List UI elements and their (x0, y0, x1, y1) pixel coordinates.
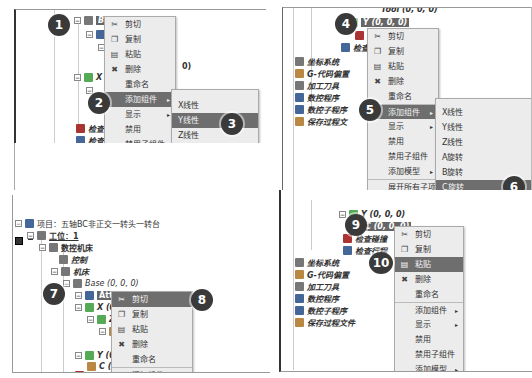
collapse-icon[interactable]: − (99, 328, 106, 335)
menu-item-display[interactable]: 显示▸ (105, 107, 175, 122)
menu-item-add-model[interactable]: 添加模型▸ (395, 362, 463, 372)
menu-item-cut[interactable]: ✂剪切 (112, 292, 192, 307)
nc-subprogram-icon (295, 306, 304, 315)
submenu-item-y-linear[interactable]: Y线性 (172, 113, 258, 128)
menu-item-display[interactable]: 显示▸ (368, 119, 438, 134)
collapse-icon[interactable]: − (63, 280, 70, 287)
tree-node-nc-program[interactable]: 数控程序 (295, 91, 339, 103)
menu-item-disable[interactable]: 禁用 (395, 332, 463, 347)
tree-node-coord-system[interactable]: 坐标系统 (295, 55, 339, 67)
collapse-icon[interactable]: − (39, 244, 46, 251)
context-menu: ✂剪切 ❐复制 ▤粘贴 ✖删除 重命名 添加组件▸ 显示▸ 禁用 禁用子组件 (104, 16, 176, 143)
tree-node-save-process[interactable]: 保存过程文件 (295, 316, 355, 328)
menu-item-rename[interactable]: 重命名 (368, 89, 438, 104)
collapse-icon[interactable]: − (75, 352, 82, 359)
tree-node-station[interactable]: − 工位：1 (27, 229, 79, 241)
menu-item-cut[interactable]: ✂剪切 (105, 17, 175, 32)
tree-node-check-collision[interactable]: 检查 (76, 122, 104, 134)
submenu-item-y-linear[interactable]: Y线性 (436, 120, 532, 135)
submenu-item-x-linear[interactable]: X线性 (172, 98, 258, 113)
tree-node-control[interactable]: 控制 (59, 253, 87, 265)
menu-item-display[interactable]: 显示▸ (395, 317, 463, 332)
menu-item-rename[interactable]: 重命名 (112, 352, 192, 367)
tree-node-g-offset[interactable]: G-代码偏置 (295, 67, 349, 79)
tree-node-save-process[interactable]: 保存过程文 (295, 115, 347, 127)
tree-node-check-travel[interactable]: 检查 (76, 134, 104, 143)
menu-item-disable[interactable]: 禁用 (368, 134, 438, 149)
g-code-offset-icon (295, 69, 304, 78)
save-process-icon (295, 318, 304, 327)
submenu-item-z-linear[interactable]: Z线性 (436, 135, 532, 150)
menu-item-delete[interactable]: ✖删除 (112, 337, 192, 352)
step-badge-9: 9 (345, 214, 367, 236)
tree-node-tools[interactable]: 加工刀具 (295, 79, 339, 91)
submenu-arrow-icon: ▸ (167, 92, 170, 107)
panel-step-4-6: Tool (0, 0, 0) Y (0, 0, 0) 检查碰 检查行 坐标系统 … (282, 7, 532, 195)
menu-item-delete[interactable]: ✖删除 (395, 272, 463, 287)
menu-item-disable-children[interactable]: 禁用子组件 (368, 149, 438, 164)
tree-node-nc-subprogram[interactable]: 数控子程序 (295, 304, 347, 316)
collapse-icon[interactable]: − (339, 211, 346, 218)
menu-item-disable[interactable]: 禁用 (105, 122, 175, 137)
collapse-icon[interactable]: − (86, 87, 93, 94)
tree-node-tools[interactable]: 加工刀具 (295, 280, 339, 292)
tree-node-x[interactable]: − X (74, 71, 102, 83)
submenu-item-a-rotary[interactable]: A旋转 (436, 150, 532, 165)
tree-node-g-offset[interactable]: G-代码偏置 (295, 268, 349, 280)
paste-icon: ▤ (400, 260, 409, 269)
collapse-icon[interactable]: − (74, 17, 81, 24)
menu-item-copy[interactable]: ❐复制 (368, 44, 438, 59)
collapse-icon[interactable]: − (27, 232, 34, 239)
menu-item-disable-children[interactable]: 禁用子组件 (395, 347, 463, 362)
menu-item-paste[interactable]: ▤粘贴 (395, 257, 463, 272)
menu-item-copy[interactable]: ❐复制 (112, 307, 192, 322)
tree-node-nc-program[interactable]: 数控程序 (295, 292, 339, 304)
nc-program-icon (295, 93, 304, 102)
step-badge-2: 2 (88, 92, 110, 114)
submenu-item-z-linear[interactable]: Z线性 (172, 128, 258, 143)
menu-item-delete[interactable]: ✖删除 (368, 74, 438, 89)
collapse-icon[interactable]: − (86, 31, 93, 38)
splitter-handle[interactable] (15, 237, 23, 245)
tree-node-project[interactable]: − 项目：五轴BC非正交一转头一转台 (15, 217, 160, 229)
menu-item-add-component[interactable]: 添加组件▸ (395, 302, 463, 317)
tree-node-coord-system[interactable]: 坐标系统 (295, 256, 339, 268)
tree-node-y[interactable]: Y (0, 0, 0) (349, 16, 409, 28)
collapse-icon[interactable]: − (51, 268, 58, 275)
menu-item-add-component[interactable]: 添加组件▸ (112, 367, 192, 373)
menu-item-cut[interactable]: ✂剪切 (368, 29, 438, 44)
submenu-item-x-linear[interactable]: X线性 (436, 105, 532, 120)
panel-blank-area (14, 143, 266, 190)
tree-node-trailing-text: 0) (182, 60, 191, 72)
step-badge-5: 5 (359, 99, 381, 121)
delete-icon: ✖ (373, 77, 382, 86)
menu-item-copy[interactable]: ❐复制 (105, 32, 175, 47)
menu-item-copy[interactable]: ❐复制 (395, 242, 463, 257)
panel-step-1-3: − Base (0, 0, 0) − At − − − X − 0) 检查 检查… (14, 9, 266, 143)
menu-item-rename[interactable]: 重命名 (395, 287, 463, 302)
submenu-arrow-icon: ▸ (430, 164, 433, 179)
check-collision-icon (355, 31, 364, 40)
coordinate-system-icon (295, 57, 304, 66)
tree-node-nc-subprogram[interactable]: 数控子程序 (295, 103, 347, 115)
collapse-icon[interactable]: − (87, 316, 94, 323)
menu-item-add-model[interactable]: 添加模型▸ (368, 164, 438, 179)
check-travel-icon (76, 136, 85, 144)
tree-node-base[interactable]: − Base (0, 0, 0) (63, 277, 139, 289)
menu-item-cut[interactable]: ✂剪切 (395, 227, 463, 242)
tree-guide (293, 190, 294, 370)
tree-node-cnc-machine[interactable]: − 数控机床 (39, 241, 93, 253)
collapse-icon[interactable]: − (75, 292, 82, 299)
menu-item-add-component[interactable]: 添加组件▸ (105, 92, 175, 107)
menu-item-paste[interactable]: ▤粘贴 (112, 322, 192, 337)
tree-node-tool[interactable]: Tool (0, 0, 0) (381, 7, 438, 15)
menu-item-paste[interactable]: ▤粘贴 (105, 47, 175, 62)
menu-item-delete[interactable]: ✖删除 (105, 62, 175, 77)
tree-node-machine[interactable]: − 机床 (51, 265, 89, 277)
menu-item-paste[interactable]: ▤粘贴 (368, 59, 438, 74)
collapse-icon[interactable]: − (75, 304, 82, 311)
collapse-icon[interactable]: − (15, 220, 22, 227)
scissors-icon: ✂ (110, 20, 119, 29)
menu-item-rename[interactable]: 重命名 (105, 77, 175, 92)
collapse-icon[interactable]: − (74, 74, 81, 81)
